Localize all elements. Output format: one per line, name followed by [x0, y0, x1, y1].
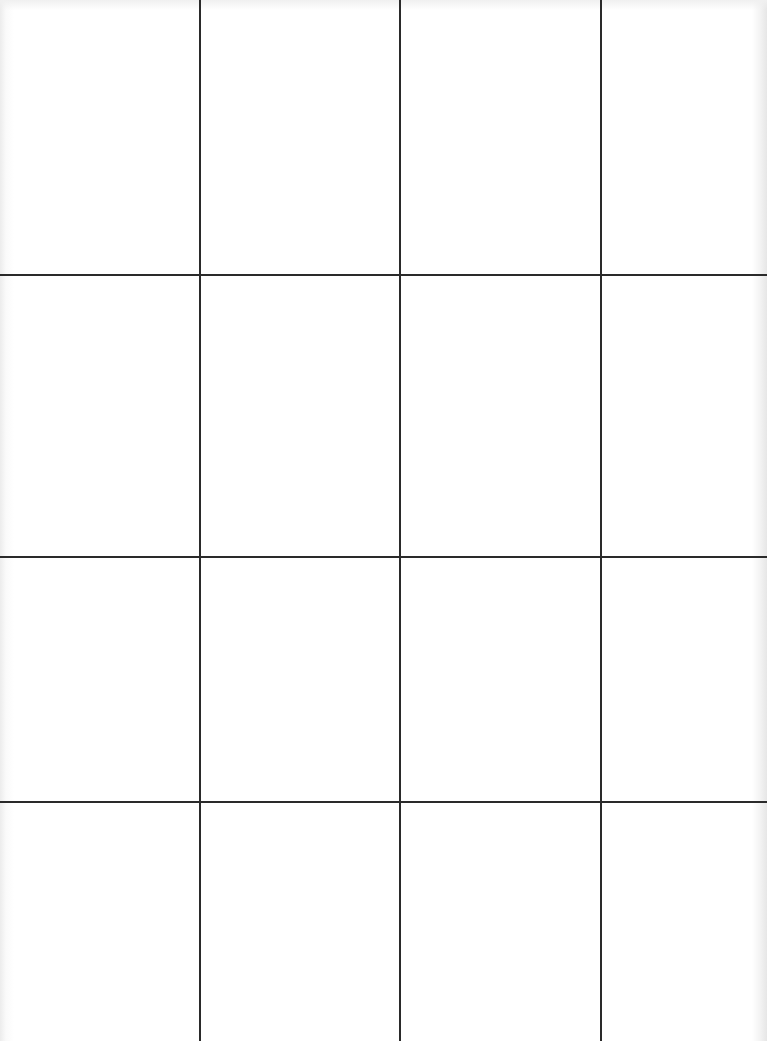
grid-horizontal-line-1 [0, 274, 767, 276]
grid-vertical-line-3 [600, 0, 602, 1041]
grid-page [0, 0, 767, 1041]
grid-horizontal-line-3 [0, 801, 767, 803]
scan-edge-shadow [0, 0, 767, 10]
grid-horizontal-line-2 [0, 556, 767, 558]
grid-vertical-line-2 [399, 0, 401, 1041]
grid-vertical-line-1 [199, 0, 201, 1041]
